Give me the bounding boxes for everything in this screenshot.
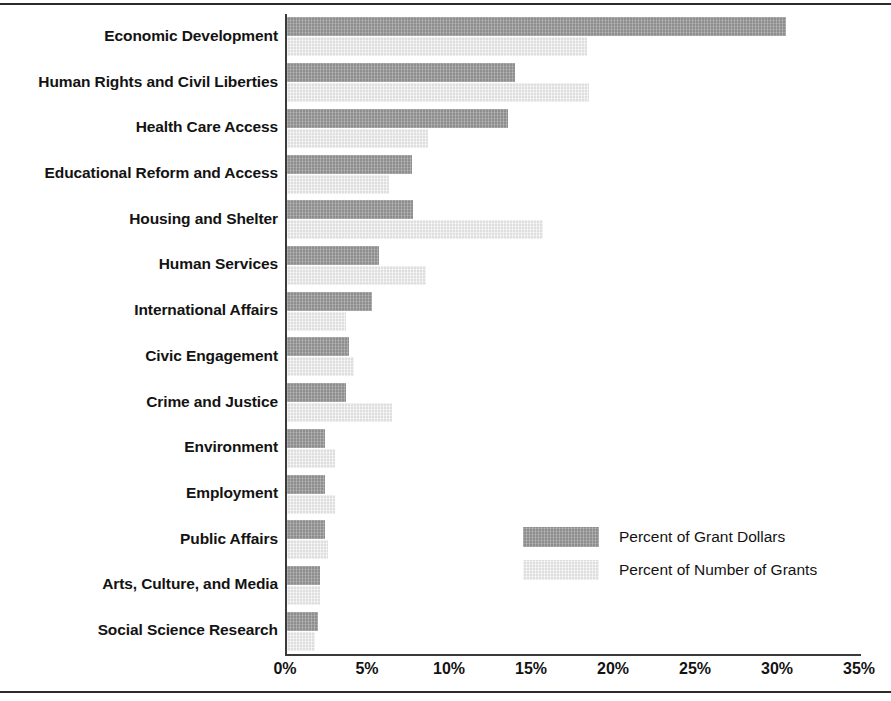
x-tick-label: 10% (433, 660, 465, 678)
x-tick-label: 20% (597, 660, 629, 678)
bar-group (287, 429, 861, 468)
bar-group (287, 337, 861, 376)
bar-number-of-grants (287, 540, 328, 559)
bar-number-of-grants (287, 312, 346, 331)
top-divider-rule (0, 3, 891, 5)
x-tick-label: 25% (679, 660, 711, 678)
category-label: Environment (0, 438, 278, 456)
bar-grant-dollars (287, 246, 379, 265)
category-label: Health Care Access (0, 118, 278, 136)
bar-group (287, 475, 861, 514)
bottom-divider-rule (0, 691, 891, 693)
bar-group (287, 109, 861, 148)
bar-number-of-grants (287, 37, 587, 56)
bar-group (287, 17, 861, 56)
category-label: Public Affairs (0, 530, 278, 548)
bar-grant-dollars (287, 17, 786, 36)
category-label: Employment (0, 484, 278, 502)
legend-swatch-grants-icon (523, 560, 599, 580)
category-label: Social Science Research (0, 621, 278, 639)
bar-grant-dollars (287, 200, 413, 219)
bar-number-of-grants (287, 266, 426, 285)
bar-number-of-grants (287, 357, 354, 376)
bar-grant-dollars (287, 383, 346, 402)
category-label: Housing and Shelter (0, 210, 278, 228)
legend-item: Percent of Number of Grants (523, 558, 817, 582)
legend-label: Percent of Number of Grants (619, 561, 817, 579)
bar-group (287, 292, 861, 331)
bar-number-of-grants (287, 632, 315, 651)
category-label: Human Services (0, 255, 278, 273)
category-label: Arts, Culture, and Media (0, 575, 278, 593)
bar-group (287, 155, 861, 194)
x-tick-label: 30% (761, 660, 793, 678)
bar-grant-dollars (287, 566, 320, 585)
bar-number-of-grants (287, 586, 320, 605)
bar-number-of-grants (287, 403, 392, 422)
category-label: Human Rights and Civil Liberties (0, 73, 278, 91)
x-axis-tick-labels: 0%5%10%15%20%25%30%35% (285, 660, 861, 688)
category-label: International Affairs (0, 301, 278, 319)
legend-item: Percent of Grant Dollars (523, 525, 785, 549)
bar-grant-dollars (287, 612, 318, 631)
bar-grant-dollars (287, 155, 412, 174)
bar-group (287, 612, 861, 651)
x-tick-label: 0% (273, 660, 296, 678)
chart-figure: Economic DevelopmentHuman Rights and Civ… (0, 0, 891, 701)
x-axis-line (285, 654, 861, 656)
bar-grant-dollars (287, 429, 325, 448)
x-tick-label: 15% (515, 660, 547, 678)
bar-number-of-grants (287, 449, 335, 468)
bar-group (287, 63, 861, 102)
legend-swatch-dollars-icon (523, 527, 599, 547)
legend-label: Percent of Grant Dollars (619, 528, 785, 546)
category-label: Crime and Justice (0, 393, 278, 411)
bar-grant-dollars (287, 109, 508, 128)
bar-group (287, 246, 861, 285)
bar-grant-dollars (287, 292, 372, 311)
category-label: Economic Development (0, 27, 278, 45)
category-axis-labels: Economic DevelopmentHuman Rights and Civ… (0, 14, 278, 655)
category-label: Educational Reform and Access (0, 164, 278, 182)
x-tick-label: 35% (843, 660, 875, 678)
bar-number-of-grants (287, 83, 589, 102)
bar-grant-dollars (287, 63, 515, 82)
x-tick-label: 5% (355, 660, 378, 678)
category-label: Civic Engagement (0, 347, 278, 365)
bar-number-of-grants (287, 129, 428, 148)
bar-group (287, 383, 861, 422)
bar-grant-dollars (287, 337, 349, 356)
bar-grant-dollars (287, 520, 325, 539)
bar-grant-dollars (287, 475, 325, 494)
bar-number-of-grants (287, 495, 335, 514)
bar-number-of-grants (287, 220, 543, 239)
bar-number-of-grants (287, 175, 389, 194)
bar-group (287, 200, 861, 239)
